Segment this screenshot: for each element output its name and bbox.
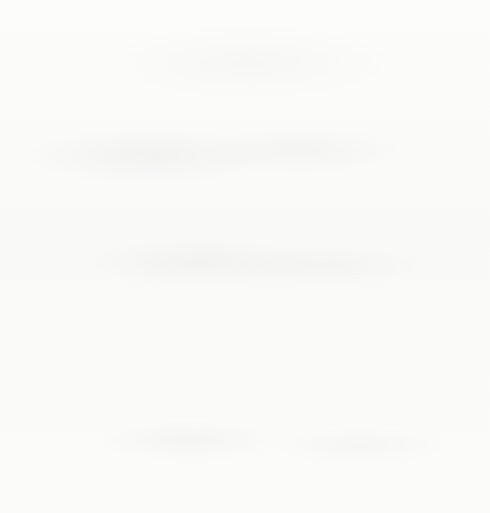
- figure-stage: [0, 0, 490, 513]
- geometry-figure: [0, 0, 490, 513]
- figure-background: [0, 0, 490, 513]
